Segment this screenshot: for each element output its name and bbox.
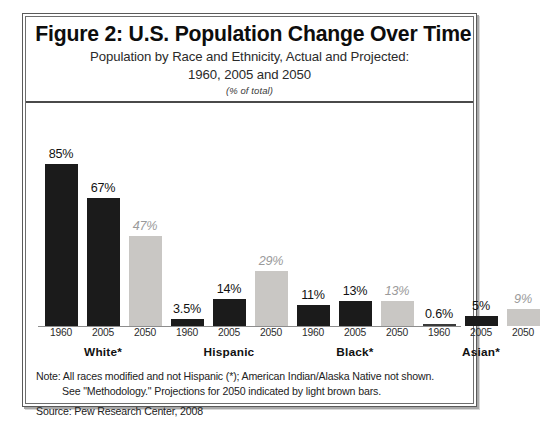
bar-slot[interactable]: 3.5% xyxy=(169,103,206,326)
figure-subtitle-line-2: 1960, 2005 and 2050 xyxy=(26,65,473,83)
bar-value-label: 11% xyxy=(301,289,325,302)
bar[interactable] xyxy=(45,164,78,326)
bar-value-label: 13% xyxy=(343,285,368,298)
bar[interactable] xyxy=(297,305,330,326)
bar-slot[interactable]: 13% xyxy=(379,103,416,326)
bar-slot[interactable]: 47% xyxy=(127,103,164,326)
bar-slot[interactable]: 67% xyxy=(85,103,122,326)
figure-frame: Figure 2: U.S. Population Change Over Ti… xyxy=(22,13,477,407)
axis-group: 196020052050White* xyxy=(40,327,166,365)
bar-value-label: 5% xyxy=(472,300,490,313)
bar[interactable] xyxy=(87,198,120,326)
year-tick-label: 2005 xyxy=(211,327,248,338)
bar[interactable] xyxy=(507,309,540,326)
group-category-label: Asian* xyxy=(418,345,544,359)
year-tick-label: 2050 xyxy=(253,327,290,338)
bar-group: 0.6%5%9% xyxy=(418,103,544,326)
figure-inner-frame: Figure 2: U.S. Population Change Over Ti… xyxy=(25,16,474,404)
bar-group: 11%13%13% xyxy=(292,103,418,326)
year-tick-label: 1960 xyxy=(421,327,458,338)
bar-slot[interactable]: 13% xyxy=(337,103,374,326)
year-tick-label: 2005 xyxy=(337,327,374,338)
year-tick-label: 2050 xyxy=(379,327,416,338)
year-tick-label: 2050 xyxy=(505,327,542,338)
bar-value-label: 29% xyxy=(259,255,284,268)
bar[interactable] xyxy=(381,301,414,326)
bar-value-label: 67% xyxy=(91,182,116,195)
year-tick-label: 2005 xyxy=(85,327,122,338)
axis-group: 196020052050Black* xyxy=(292,327,418,365)
bar[interactable] xyxy=(255,271,288,326)
group-category-label: Hispanic xyxy=(166,345,292,359)
bar[interactable] xyxy=(171,319,204,326)
bar[interactable] xyxy=(465,316,498,326)
year-tick-label: 2050 xyxy=(127,327,164,338)
axis-group: 196020052050Asian* xyxy=(418,327,544,365)
chart-plot-area: 85%67%47%3.5%14%29%11%13%13%0.6%5%9% xyxy=(26,103,473,327)
bar-group: 3.5%14%29% xyxy=(166,103,292,326)
bar-value-label: 85% xyxy=(49,148,74,161)
page-title: Figure 2: U.S. Population Change Over Ti… xyxy=(29,17,469,46)
source-line: Source: Pew Research Center, 2008 xyxy=(36,404,463,419)
note-line-2: See "Methodology." Projections for 2050 … xyxy=(36,384,463,399)
group-category-label: White* xyxy=(40,345,166,359)
figure-subtitle-line-1: Population by Race and Ethnicity, Actual… xyxy=(26,46,473,65)
bar-group: 85%67%47% xyxy=(40,103,166,326)
bar-slot[interactable]: 0.6% xyxy=(421,103,458,326)
bar-slot[interactable]: 9% xyxy=(505,103,542,326)
year-tick-label: 1960 xyxy=(169,327,206,338)
bar-slot[interactable]: 85% xyxy=(43,103,80,326)
year-tick-row: 196020052050 xyxy=(166,327,292,338)
bar[interactable] xyxy=(129,236,162,326)
title-block: Figure 2: U.S. Population Change Over Ti… xyxy=(26,17,473,103)
bar-slot[interactable]: 5% xyxy=(463,103,500,326)
bar-slot[interactable]: 11% xyxy=(295,103,332,326)
axis-label-row: 196020052050White*196020052050Hispanic19… xyxy=(40,327,465,365)
year-tick-row: 196020052050 xyxy=(418,327,544,338)
year-tick-label: 2005 xyxy=(463,327,500,338)
bar-value-label: 47% xyxy=(133,220,158,233)
bar-groups: 85%67%47%3.5%14%29%11%13%13%0.6%5%9% xyxy=(40,103,465,326)
year-tick-row: 196020052050 xyxy=(40,327,166,338)
notes-block: Note: All races modified and not Hispani… xyxy=(36,369,463,419)
year-tick-label: 1960 xyxy=(43,327,80,338)
bar-value-label: 3.5% xyxy=(173,303,201,316)
bar-slot[interactable]: 14% xyxy=(211,103,248,326)
bar-value-label: 13% xyxy=(385,285,410,298)
bar-slot[interactable]: 29% xyxy=(253,103,290,326)
group-category-label: Black* xyxy=(292,345,418,359)
year-tick-label: 1960 xyxy=(295,327,332,338)
axis-group: 196020052050Hispanic xyxy=(166,327,292,365)
figure-subtitle-unit: (% of total) xyxy=(26,83,473,96)
year-tick-row: 196020052050 xyxy=(292,327,418,338)
bar[interactable] xyxy=(339,301,372,326)
note-line-1: Note: All races modified and not Hispani… xyxy=(36,369,463,384)
bar-value-label: 9% xyxy=(514,293,532,306)
bar[interactable] xyxy=(213,299,246,326)
bar-value-label: 14% xyxy=(217,283,242,296)
bar-value-label: 0.6% xyxy=(425,308,453,321)
